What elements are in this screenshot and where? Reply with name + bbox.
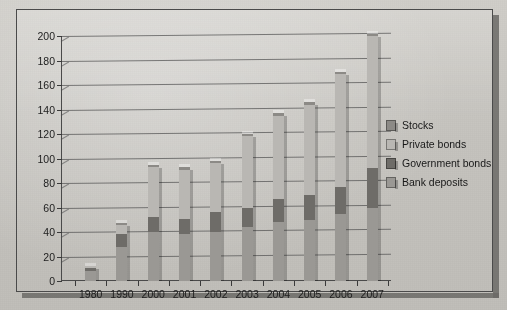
y-axis-tick xyxy=(57,159,62,160)
legend-swatch-icon xyxy=(386,158,396,169)
x-axis-label-2001: 2001 xyxy=(173,288,196,300)
bar-top-cap xyxy=(335,69,346,72)
bar-segment-government-bonds xyxy=(210,212,221,232)
y-axis-tick-label: 0 xyxy=(49,276,55,287)
legend-item-label: Government bonds xyxy=(402,158,491,169)
x-axis-tick xyxy=(75,281,76,286)
x-axis-label-2003: 2003 xyxy=(235,288,258,300)
bar-2002 xyxy=(210,161,221,281)
y-axis-tick xyxy=(57,110,62,111)
bar-segment-government-bonds xyxy=(367,168,378,207)
bar-top-cap xyxy=(116,220,127,223)
bar-2000 xyxy=(148,165,159,281)
chart-plot-area: 020406080100120140160180200 198019902000… xyxy=(61,36,391,281)
y-axis-tick xyxy=(57,61,62,62)
bar-segment-private-bonds xyxy=(335,74,346,187)
figure-frame: 020406080100120140160180200 198019902000… xyxy=(16,9,493,292)
bar-segment-bank-deposits xyxy=(116,247,127,281)
x-axis-label-2007: 2007 xyxy=(361,288,384,300)
bar-segment-government-bonds xyxy=(273,199,284,222)
bar-segment-private-bonds xyxy=(273,116,284,199)
bar-segment-government-bonds xyxy=(335,187,346,214)
bar-2004 xyxy=(273,113,284,281)
bar-segment-private-bonds xyxy=(179,170,190,219)
gridline xyxy=(61,33,391,37)
bar-segment-bank-deposits xyxy=(179,234,190,281)
bar-segment-bank-deposits xyxy=(304,220,315,281)
bar-2001 xyxy=(179,167,190,281)
gridline xyxy=(61,57,391,61)
bar-segment-government-bonds xyxy=(242,208,253,228)
x-axis-tick xyxy=(106,281,107,286)
y-axis-tick-label: 100 xyxy=(37,153,55,164)
bar-top-cap xyxy=(304,99,315,102)
x-axis-label-2005: 2005 xyxy=(298,288,321,300)
bar-top-cap xyxy=(148,162,159,165)
x-axis-label-2000: 2000 xyxy=(142,288,165,300)
bar-2006 xyxy=(335,72,346,281)
bar-segment-bank-deposits xyxy=(273,222,284,281)
bar-1980 xyxy=(85,266,96,281)
x-axis-tick xyxy=(231,281,232,286)
legend-item-stocks: Stocks xyxy=(386,116,504,135)
bar-segment-government-bonds xyxy=(179,219,190,235)
x-axis-label-1990: 1990 xyxy=(110,288,133,300)
bar-segment-bank-deposits xyxy=(242,227,253,281)
x-axis-tick xyxy=(325,281,326,286)
y-axis-tick xyxy=(57,208,62,209)
bar-1990 xyxy=(116,223,127,281)
legend-item-label: Bank deposits xyxy=(402,177,468,188)
y-axis-tick xyxy=(57,232,62,233)
bar-segment-bank-deposits xyxy=(367,208,378,282)
legend-item-label: Stocks xyxy=(402,120,434,131)
y-axis-tick-label: 200 xyxy=(37,31,55,42)
y-axis-tick xyxy=(57,281,62,282)
y-axis-tick-label: 60 xyxy=(43,202,55,213)
x-axis-label-2006: 2006 xyxy=(329,288,352,300)
x-axis-tick xyxy=(138,281,139,286)
bar-2005 xyxy=(304,102,315,281)
y-axis-tick-label: 20 xyxy=(43,251,55,262)
x-axis-label-1980: 1980 xyxy=(79,288,102,300)
legend-swatch-icon xyxy=(386,139,396,150)
bar-segment-government-bonds xyxy=(148,217,159,232)
legend-item-bank-deposits: Bank deposits xyxy=(386,173,504,192)
bar-segment-private-bonds xyxy=(148,167,159,217)
bar-top-cap xyxy=(85,263,96,266)
x-axis-label-2002: 2002 xyxy=(204,288,227,300)
bar-segment-bank-deposits xyxy=(210,232,221,281)
y-axis-tick-label: 80 xyxy=(43,178,55,189)
bar-top-cap xyxy=(179,164,190,167)
x-axis-tick xyxy=(294,281,295,286)
bar-segment-bank-deposits xyxy=(148,232,159,281)
x-axis-tick xyxy=(200,281,201,286)
legend-item-government-bonds: Government bonds xyxy=(386,154,504,173)
x-axis-tick xyxy=(263,281,264,286)
bar-top-cap xyxy=(367,31,378,34)
x-axis-tick xyxy=(169,281,170,286)
y-axis-tick xyxy=(57,36,62,37)
bar-segment-government-bonds xyxy=(116,234,127,246)
y-axis-tick-label: 120 xyxy=(37,129,55,140)
legend-swatch-icon xyxy=(386,120,396,131)
chart-legend: StocksPrivate bondsGovernment bondsBank … xyxy=(386,116,504,192)
bar-segment-private-bonds xyxy=(116,225,127,235)
bar-top-cap xyxy=(273,110,284,113)
y-axis-tick xyxy=(57,183,62,184)
bar-2007 xyxy=(367,34,378,281)
y-axis-tick-label: 160 xyxy=(37,80,55,91)
legend-item-private-bonds: Private bonds xyxy=(386,135,504,154)
legend-item-label: Private bonds xyxy=(402,139,466,150)
bar-2003 xyxy=(242,134,253,281)
y-axis-tick xyxy=(57,257,62,258)
x-axis-tick xyxy=(388,281,389,286)
bar-segment-bank-deposits xyxy=(335,214,346,281)
bar-segment-private-bonds xyxy=(367,36,378,168)
bar-top-cap xyxy=(242,131,253,134)
bar-top-cap xyxy=(210,158,221,161)
x-axis-tick xyxy=(357,281,358,286)
y-axis-tick xyxy=(57,85,62,86)
y-axis-tick-label: 180 xyxy=(37,55,55,66)
bar-segment-private-bonds xyxy=(304,105,315,196)
y-axis-tick-label: 140 xyxy=(37,104,55,115)
